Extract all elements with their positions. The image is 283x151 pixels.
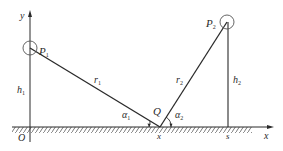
segment-r2 <box>160 22 227 127</box>
p1-label: P1 <box>38 45 49 58</box>
r2-label: r2 <box>176 74 183 86</box>
h1-label: h1 <box>17 84 25 96</box>
geometry-diagram: y P1 P2 h1 r1 r2 h2 α1 α2 Q O x s x <box>0 0 283 151</box>
angle-alpha2-arc <box>166 117 171 127</box>
y-axis-arrow <box>28 10 32 17</box>
alpha1-label: α1 <box>122 109 130 121</box>
p2-label: P2 <box>205 17 216 30</box>
x-axis-arrow <box>267 125 274 129</box>
angle-alpha2-arrow <box>170 124 173 128</box>
segment-r1 <box>30 48 160 127</box>
h2-label: h2 <box>233 74 241 86</box>
x-axis-label: x <box>263 130 269 141</box>
s-tick-label: s <box>226 131 230 141</box>
q-label: Q <box>153 105 161 117</box>
q-x-tick-label: x <box>156 131 161 141</box>
y-axis-label: y <box>19 10 25 21</box>
origin-label: O <box>18 132 25 143</box>
r1-label: r1 <box>94 74 101 86</box>
alpha2-label: α2 <box>175 109 183 121</box>
ground-hatching <box>12 127 252 133</box>
